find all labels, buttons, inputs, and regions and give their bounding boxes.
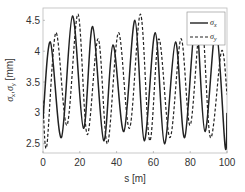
- x-tick-label: 60: [148, 157, 160, 168]
- legend: σx σy: [187, 12, 225, 45]
- y-tick-label: 3: [34, 107, 40, 118]
- y-axis: 2.533.544.5: [26, 15, 45, 149]
- y-tick-label: 4.5: [26, 15, 40, 26]
- line-chart: 2.533.544.5 020406080100 σx σy s [m] σx,…: [0, 0, 245, 192]
- x-axis-label: s [m]: [124, 173, 146, 184]
- x-tick-label: 20: [74, 157, 86, 168]
- x-tick-label: 0: [40, 157, 46, 168]
- y-tick-label: 4: [34, 46, 40, 57]
- legend-box: [187, 12, 225, 45]
- x-axis: 020406080100: [40, 151, 236, 168]
- y-axis-label: σx,σy [mm]: [4, 58, 16, 102]
- y-tick-label: 2.5: [26, 138, 40, 149]
- x-tick-label: 40: [111, 157, 123, 168]
- y-tick-label: 3.5: [26, 77, 40, 88]
- x-tick-label: 80: [185, 157, 197, 168]
- x-tick-label: 100: [219, 157, 236, 168]
